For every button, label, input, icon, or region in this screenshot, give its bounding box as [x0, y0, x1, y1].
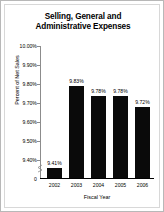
y-tick-label: 9.90% — [22, 62, 38, 68]
x-tick-label-2006: 2006 — [130, 182, 156, 188]
bar-2003 — [69, 86, 84, 178]
bar-2006 — [135, 107, 150, 178]
y-tick-label: 9.50% — [22, 138, 38, 144]
y-tick-label: 9.70% — [22, 100, 38, 106]
chart-frame: Selling, General and Administrative Expe… — [0, 0, 164, 212]
y-tick-label: 10.00% — [20, 43, 39, 49]
bar-2005 — [113, 96, 128, 178]
y-axis-zero-label: 0 — [34, 176, 39, 182]
x-axis-line — [40, 178, 154, 179]
y-tick-label: 9.40% — [22, 157, 38, 163]
chart-title-line-1: Selling, General and — [15, 12, 151, 22]
bar-value-label-2002: 9.41% — [41, 160, 69, 166]
y-tick-label: 9.60% — [22, 119, 38, 125]
bar-2002 — [47, 168, 62, 178]
chart-title: Selling, General and Administrative Expe… — [15, 12, 151, 31]
x-axis-title: Fiscal Year — [40, 194, 154, 200]
y-tick-label: 9.80% — [22, 81, 38, 87]
bar-2004 — [91, 96, 106, 178]
bar-value-label-2003: 9.83% — [63, 78, 91, 84]
plot-area: 10.00% 9.90% 9.80% 9.70% 9.60% 9.50% 9.4… — [40, 46, 154, 179]
chart-title-line-2: Administrative Expenses — [15, 22, 151, 32]
chart-inner-border: Selling, General and Administrative Expe… — [4, 4, 160, 208]
bar-value-label-2006: 9.72% — [129, 99, 157, 105]
bar-value-label-2005: 9.78% — [107, 88, 135, 94]
